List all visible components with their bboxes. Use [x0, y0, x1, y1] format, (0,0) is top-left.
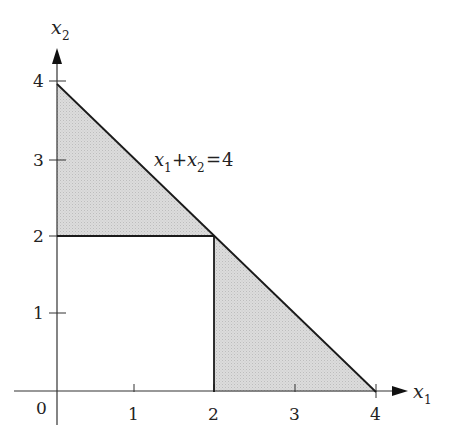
constraint-equation-label: x 1 + x 2 = 4 [154, 149, 233, 175]
svg-text:1: 1 [424, 393, 432, 407]
svg-text:1: 1 [164, 161, 172, 175]
y-tick-label-1: 1 [33, 303, 44, 323]
svg-text:2: 2 [62, 29, 70, 43]
x-tick-label-1: 1 [128, 404, 139, 424]
x-axis-label: x 1 [413, 380, 432, 407]
feasible-region-diagram: 0 1 2 3 4 1 2 3 4 x 1 x 2 x 1 + x 2 = 4 [0, 0, 450, 447]
x-axis-arrow-icon [392, 386, 408, 396]
svg-text:x: x [187, 149, 197, 170]
y-tick-label-2: 2 [33, 226, 44, 246]
svg-text:2: 2 [197, 161, 205, 175]
y-axis-label: x 2 [51, 16, 70, 43]
svg-text:x: x [51, 16, 62, 38]
svg-text:+: + [172, 149, 187, 170]
x-tick-label-3: 3 [289, 404, 300, 424]
svg-text:=: = [206, 149, 221, 170]
origin-label: 0 [36, 398, 47, 418]
svg-text:x: x [154, 149, 164, 170]
y-tick-label-4: 4 [33, 71, 44, 91]
svg-text:x: x [413, 380, 424, 402]
svg-text:4: 4 [222, 149, 233, 170]
x-tick-label-2: 2 [208, 404, 219, 424]
y-axis-arrow-icon [52, 48, 62, 64]
y-tick-label-3: 3 [33, 150, 44, 170]
x-tick-label-4: 4 [370, 404, 381, 424]
